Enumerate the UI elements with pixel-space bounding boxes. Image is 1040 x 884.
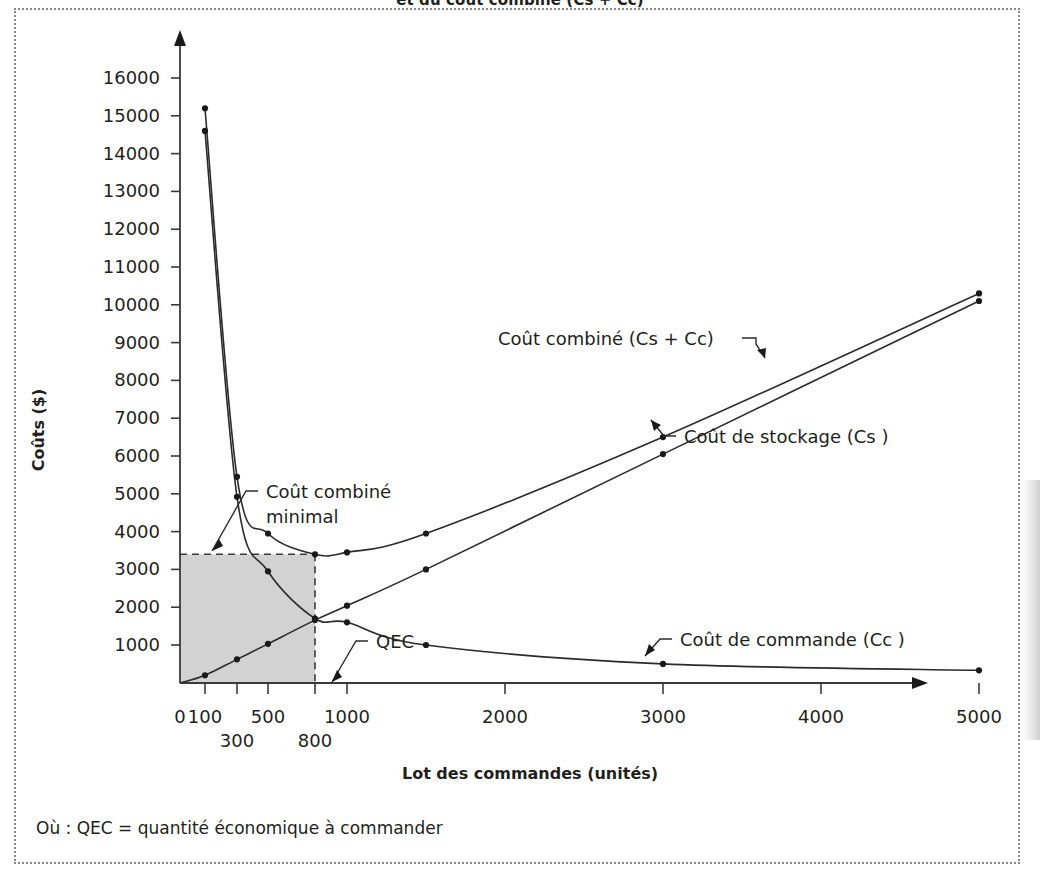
data-point-markers	[202, 105, 982, 678]
data-point-marker	[265, 530, 271, 536]
annotation-ordering-cost: Coût de commande (Cc )	[680, 629, 905, 650]
y-axis-tick-label: 11000	[103, 256, 160, 277]
data-point-marker	[265, 568, 271, 574]
y-axis-tick-label: 6000	[114, 445, 160, 466]
y-axis-tick-label: 3000	[114, 558, 160, 579]
leader-line-combined-cost	[742, 338, 765, 358]
annotation-combined-cost: Coût combiné (Cs + Cc)	[498, 328, 714, 349]
y-axis-tick-label: 15000	[103, 105, 160, 126]
data-point-marker	[344, 619, 350, 625]
data-point-marker	[312, 551, 318, 557]
y-axis-tick-label: 10000	[103, 294, 160, 315]
x-axis-tick-label: 500	[251, 706, 285, 727]
data-point-marker	[234, 474, 240, 480]
y-axis-tick-label: 12000	[103, 218, 160, 239]
y-axis-tick-label: 1000	[114, 634, 160, 655]
chart-plot-area: 1000200030004000500060007000800090001000…	[0, 0, 1040, 884]
y-axis-tick-labels: 1000200030004000500060007000800090001000…	[103, 67, 160, 655]
data-point-marker	[976, 667, 982, 673]
annotation-combined-min-line2: minimal	[266, 506, 339, 527]
x-axis-tick-label: 1000	[324, 706, 370, 727]
y-axis-tick-label: 9000	[114, 332, 160, 353]
y-axis-tick-label: 5000	[114, 483, 160, 504]
shaded-region-qec	[180, 554, 315, 683]
data-point-marker	[202, 672, 208, 678]
x-axis-title: Lot des commandes (unités)	[402, 764, 658, 783]
x-axis-tick-label: 100	[188, 706, 222, 727]
footnote-qec-definition: Où : QEC = quantité économique à command…	[36, 818, 443, 838]
data-point-marker	[234, 656, 240, 662]
data-point-marker	[660, 661, 666, 667]
x-axis-tick-label: 5000	[956, 706, 1002, 727]
series-line-ordering-cost	[205, 131, 979, 670]
annotation-storage-cost: Coût de stockage (Cs )	[684, 426, 888, 447]
x-axis-tick-label: 3000	[640, 706, 686, 727]
x-axis-tick-label: 2000	[482, 706, 528, 727]
data-point-marker	[312, 615, 318, 621]
arrowhead-qec	[332, 670, 342, 682]
x-axis-tick-label: 300	[220, 730, 254, 751]
data-point-marker	[344, 549, 350, 555]
data-point-marker	[423, 530, 429, 536]
arrowhead-combined-cost	[757, 348, 766, 358]
data-point-marker	[202, 105, 208, 111]
data-point-marker	[423, 566, 429, 572]
y-axis-tick-label: 4000	[114, 521, 160, 542]
annotation-combined-min-line1: Coût combiné	[266, 481, 391, 502]
y-axis-tick-label: 14000	[103, 143, 160, 164]
data-point-marker	[344, 603, 350, 609]
x-axis-arrowhead	[912, 677, 928, 689]
x-axis-tick-label: 4000	[798, 706, 844, 727]
data-point-marker	[660, 451, 666, 457]
data-point-marker	[423, 642, 429, 648]
annotation-qec: QEC	[376, 631, 414, 652]
data-point-marker	[976, 298, 982, 304]
y-axis-tick-label: 16000	[103, 67, 160, 88]
x-axis-tick-label: 0	[174, 706, 185, 727]
y-axis-tick-label: 8000	[114, 369, 160, 390]
x-axis-ticks	[205, 683, 979, 694]
x-axis-tick-labels: 010030050080010002000300040005000	[174, 706, 1002, 751]
data-point-marker	[265, 641, 271, 647]
y-axis-tick-label: 2000	[114, 596, 160, 617]
x-axis-tick-label: 800	[298, 730, 332, 751]
y-axis-tick-label: 13000	[103, 180, 160, 201]
y-axis-ticks	[171, 78, 180, 645]
y-axis-arrowhead	[174, 30, 186, 46]
data-point-marker	[976, 290, 982, 296]
y-axis-tick-label: 7000	[114, 407, 160, 428]
y-axis-title: Coûts ($)	[29, 389, 48, 472]
data-point-marker	[202, 128, 208, 134]
arrowhead-storage-cost	[651, 420, 661, 431]
data-point-marker	[234, 494, 240, 500]
